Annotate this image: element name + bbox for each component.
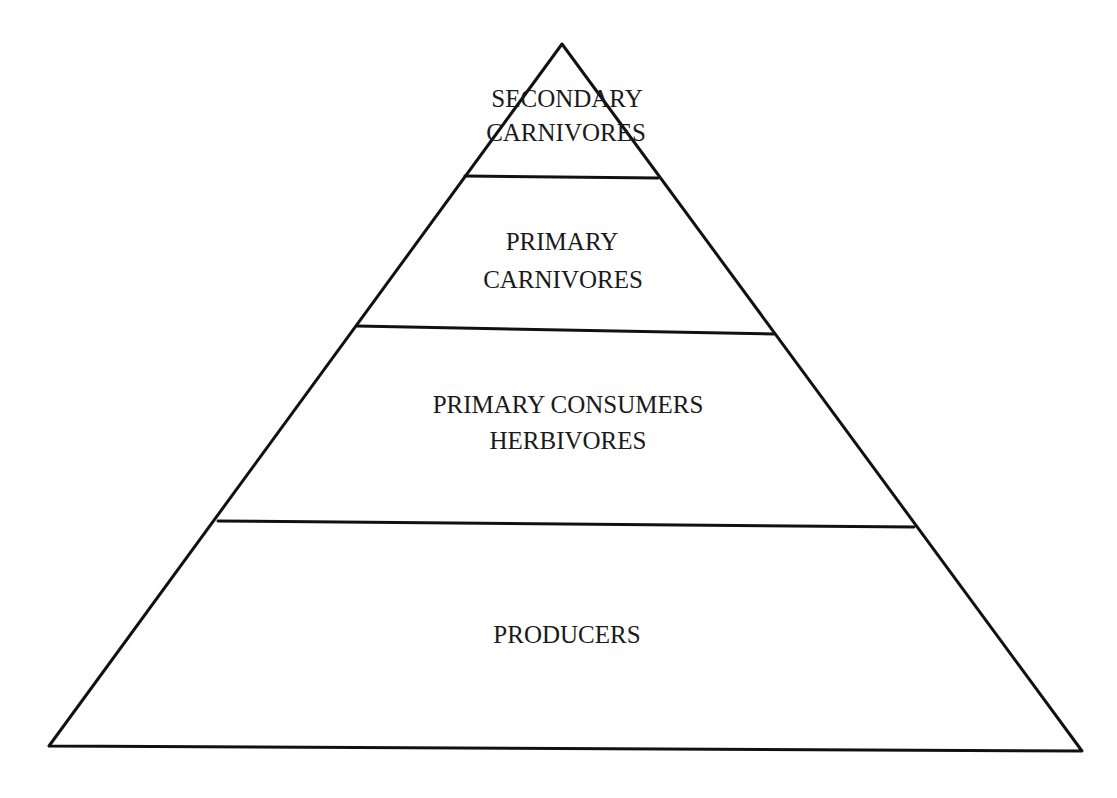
level-primary-carnivores: PRIMARY CARNIVORES — [483, 228, 643, 293]
level-label-line1: PRODUCERS — [493, 621, 640, 648]
level-label-line2: CARNIVORES — [483, 266, 643, 293]
level-label-line1: SECONDARY — [491, 85, 642, 112]
divider-1 — [465, 176, 658, 178]
level-producers: PRODUCERS — [493, 621, 640, 648]
level-label-line2: CARNIVORES — [486, 119, 646, 146]
level-label-line1: PRIMARY CONSUMERS — [433, 391, 704, 418]
level-label-line1: PRIMARY — [506, 228, 619, 255]
level-label-line2: HERBIVORES — [490, 427, 647, 454]
level-primary-consumers: PRIMARY CONSUMERS HERBIVORES — [433, 391, 704, 454]
divider-2 — [357, 326, 774, 334]
pyramid-diagram: SECONDARY CARNIVORES PRIMARY CARNIVORES … — [0, 0, 1117, 798]
divider-3 — [218, 521, 914, 527]
